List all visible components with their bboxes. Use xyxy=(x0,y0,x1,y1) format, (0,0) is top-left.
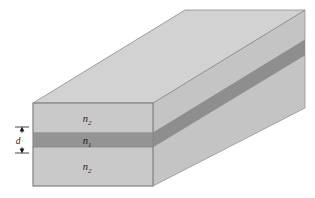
figure-container: d n2 n1 n2 xyxy=(0,0,315,198)
front-face-lower-cladding xyxy=(33,147,153,186)
upper-cladding-label-subscript: 2 xyxy=(88,119,92,127)
thickness-label: d xyxy=(16,136,21,146)
core-label-subscript: 1 xyxy=(88,141,92,149)
front-face-upper-cladding xyxy=(33,103,153,133)
front-face-core xyxy=(33,133,153,147)
slab-waveguide-diagram: d n2 n1 n2 xyxy=(0,0,315,198)
lower-cladding-label-subscript: 2 xyxy=(88,167,92,175)
thickness-label-base: d xyxy=(16,136,21,146)
